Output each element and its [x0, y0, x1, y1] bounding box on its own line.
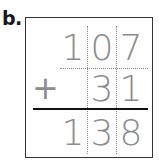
sum-tens: 3 [88, 115, 116, 151]
plus-sign: + [32, 72, 59, 104]
addend1-ones: 7 [117, 30, 145, 66]
sum-hundreds: 1 [59, 115, 87, 151]
addend1-tens: 0 [88, 30, 116, 66]
addition-grid: 1 0 7 + 3 1 1 3 8 [25, 17, 153, 158]
sum-ones: 8 [117, 115, 145, 151]
addend1-hundreds: 1 [59, 30, 87, 66]
addend2-ones: 1 [117, 71, 145, 107]
addend2-tens: 3 [88, 71, 116, 107]
problem-label: b. [2, 7, 22, 29]
